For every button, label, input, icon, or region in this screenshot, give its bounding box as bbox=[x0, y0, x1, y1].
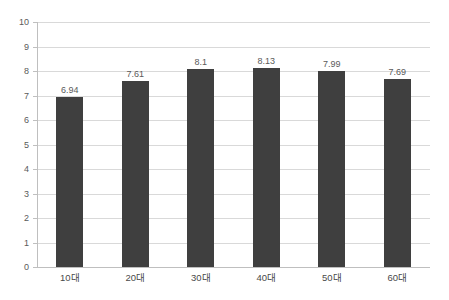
x-axis-category-label: 30대 bbox=[171, 271, 231, 284]
bar[interactable] bbox=[318, 71, 345, 267]
y-axis-tick-label: 0 bbox=[5, 263, 29, 272]
bar-value-label: 6.94 bbox=[46, 85, 94, 95]
bar-value-label: 7.99 bbox=[308, 59, 356, 69]
y-axis-tick-mark bbox=[33, 47, 37, 48]
bar-value-label: 8.13 bbox=[242, 56, 290, 66]
y-axis-tick-label: 1 bbox=[5, 238, 29, 247]
y-axis-tick-mark bbox=[33, 145, 37, 146]
x-axis-category-label: 40대 bbox=[236, 271, 296, 284]
x-axis-category-labels: 10대20대30대40대50대60대 bbox=[37, 271, 430, 289]
bar-slot: 7.99 bbox=[299, 22, 365, 267]
bar-slot: 8.1 bbox=[168, 22, 234, 267]
bar-value-label: 7.69 bbox=[373, 67, 421, 77]
y-axis-tick-mark bbox=[33, 96, 37, 97]
y-axis-tick-mark bbox=[33, 120, 37, 121]
bar[interactable] bbox=[253, 68, 280, 267]
y-axis-tick-label: 10 bbox=[5, 18, 29, 27]
y-axis-tick-mark bbox=[33, 194, 37, 195]
gridline bbox=[37, 267, 430, 268]
bar[interactable] bbox=[122, 81, 149, 267]
bar-slot: 7.61 bbox=[103, 22, 169, 267]
y-axis-tick-mark bbox=[33, 169, 37, 170]
bar-chart: 012345678910 6.947.618.18.137.997.69 10대… bbox=[0, 0, 449, 300]
x-axis-category-label: 20대 bbox=[105, 271, 165, 284]
y-axis-tick-label: 9 bbox=[5, 42, 29, 51]
y-axis-tick-label: 8 bbox=[5, 67, 29, 76]
y-axis-tick-mark bbox=[33, 71, 37, 72]
y-axis-tick-label: 5 bbox=[5, 140, 29, 149]
y-axis-tick-mark bbox=[33, 243, 37, 244]
y-axis-tick-label: 3 bbox=[5, 189, 29, 198]
bar-slot: 8.13 bbox=[234, 22, 300, 267]
y-axis-tick-label: 4 bbox=[5, 165, 29, 174]
y-axis-tick-labels: 012345678910 bbox=[0, 22, 29, 267]
bar[interactable] bbox=[384, 79, 411, 267]
y-axis-tick-label: 2 bbox=[5, 214, 29, 223]
y-axis-tick-label: 6 bbox=[5, 116, 29, 125]
x-axis-category-label: 10대 bbox=[40, 271, 100, 284]
bar-value-label: 8.1 bbox=[177, 57, 225, 67]
bar[interactable] bbox=[187, 69, 214, 267]
y-axis-tick-label: 7 bbox=[5, 91, 29, 100]
x-axis-category-label: 50대 bbox=[302, 271, 362, 284]
bar-value-label: 7.61 bbox=[111, 69, 159, 79]
bar-slot: 7.69 bbox=[365, 22, 431, 267]
y-axis-tick-mark bbox=[33, 267, 37, 268]
y-axis-tick-mark bbox=[33, 22, 37, 23]
y-axis-tick-mark bbox=[33, 218, 37, 219]
bars-layer: 6.947.618.18.137.997.69 bbox=[37, 22, 430, 267]
bar-slot: 6.94 bbox=[37, 22, 103, 267]
bar[interactable] bbox=[56, 97, 83, 267]
x-axis-category-label: 60대 bbox=[367, 271, 427, 284]
